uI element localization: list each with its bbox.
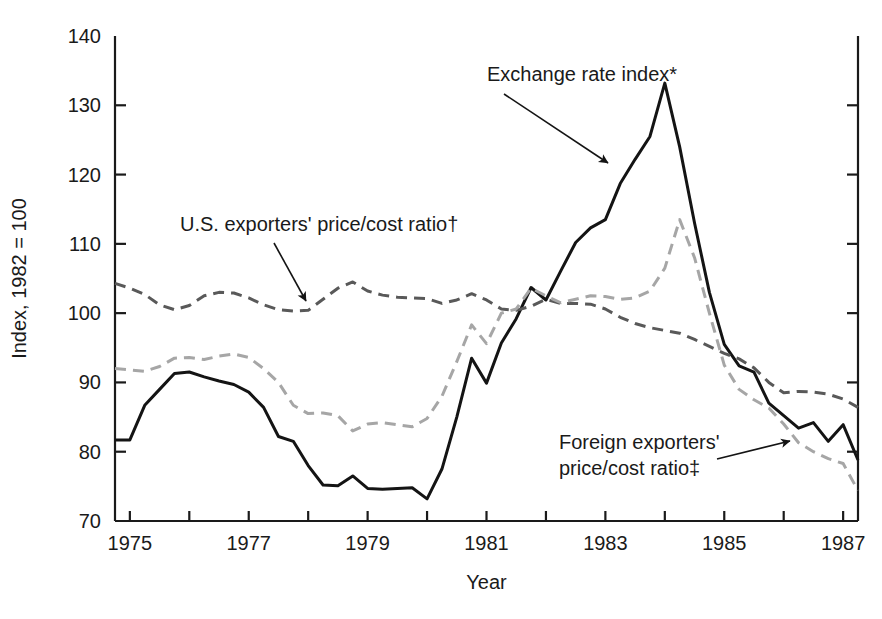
y-tick-label-100: 100 xyxy=(68,302,101,324)
axis-labels: 1401301201101009080701975197719791981198… xyxy=(8,25,865,593)
y-tick-label-90: 90 xyxy=(79,371,101,393)
annotation-label-foreign-exporters-price-cost-ratio-line2: price/cost ratio‡ xyxy=(559,457,700,479)
y-tick-label-70: 70 xyxy=(79,510,101,532)
chart-figure: Exchange rate index*U.S. exporters' pric… xyxy=(0,0,882,619)
series-line-0 xyxy=(115,83,858,499)
annotation-foreign-exporters-price-cost-ratio: Foreign exporters'price/cost ratio‡ xyxy=(559,431,790,479)
annotation-exchange-rate-index: Exchange rate index* xyxy=(487,63,677,163)
annotation-label-exchange-rate-index: Exchange rate index* xyxy=(487,63,677,85)
y-tick-label-120: 120 xyxy=(68,164,101,186)
annotation-arrow-foreign-exporters-price-cost-ratio xyxy=(717,441,790,459)
annotation-arrow-us-exporters-price-cost-ratio xyxy=(274,243,306,301)
annotation-label-us-exporters-price-cost-ratio: U.S. exporters' price/cost ratio† xyxy=(180,213,458,235)
line-chart: Exchange rate index*U.S. exporters' pric… xyxy=(0,0,882,619)
series-line-2 xyxy=(115,220,858,491)
annotation-arrow-exchange-rate-index xyxy=(504,94,608,163)
x-tick-label-1979: 1979 xyxy=(345,532,390,554)
x-tick-label-1977: 1977 xyxy=(226,532,271,554)
x-tick-label-1987: 1987 xyxy=(821,532,866,554)
x-axis-title: Year xyxy=(466,571,507,593)
x-tick-label-1981: 1981 xyxy=(464,532,509,554)
y-tick-label-110: 110 xyxy=(69,233,101,255)
y-tick-label-140: 140 xyxy=(68,25,101,47)
annotation-label-foreign-exporters-price-cost-ratio-line1: Foreign exporters' xyxy=(559,431,720,453)
axes xyxy=(115,36,858,521)
x-tick-label-1975: 1975 xyxy=(108,532,153,554)
x-tick-label-1985: 1985 xyxy=(702,532,747,554)
y-axis-title: Index, 1982 = 100 xyxy=(8,198,30,359)
y-tick-label-130: 130 xyxy=(68,94,101,116)
data-series xyxy=(115,83,858,499)
y-tick-label-80: 80 xyxy=(79,441,101,463)
annotation-us-exporters-price-cost-ratio: U.S. exporters' price/cost ratio† xyxy=(180,213,458,301)
x-tick-label-1983: 1983 xyxy=(583,532,628,554)
